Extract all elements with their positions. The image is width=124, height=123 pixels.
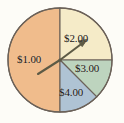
slice-label-3: $3.00 <box>75 63 99 74</box>
slice-label-1: $1.00 <box>17 54 41 65</box>
slice-label-4: $4.00 <box>59 87 83 98</box>
spinner-figure: $1.00 $2.00 $3.00 $4.00 <box>0 0 124 123</box>
spinner-pivot <box>58 58 61 61</box>
slice-label-2: $2.00 <box>64 33 88 44</box>
